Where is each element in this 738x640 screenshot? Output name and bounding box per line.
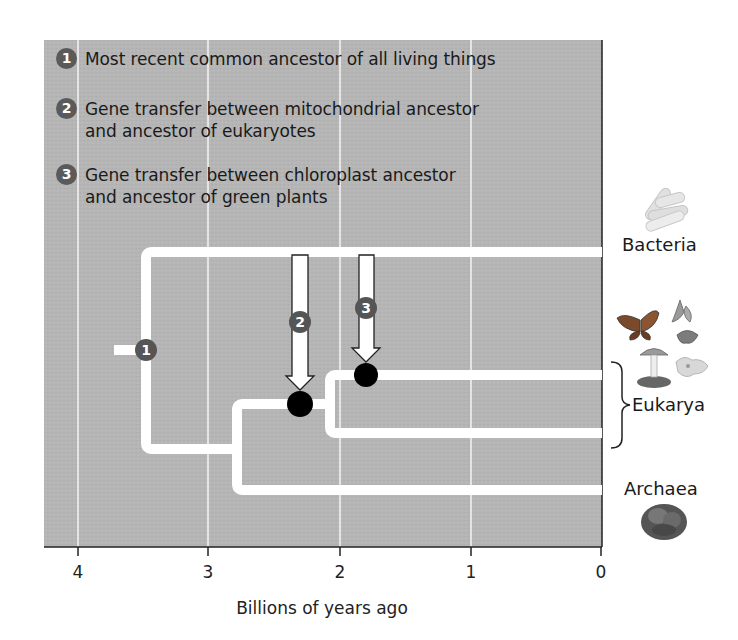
taxon-label-eukarya: Eukarya (632, 394, 705, 415)
butterfly-icon (617, 311, 659, 340)
phylogenetic-tree-figure: 1 Most recent common ancestor of all liv… (0, 0, 738, 640)
legend-item-1: 1 Most recent common ancestor of all liv… (56, 48, 496, 70)
legend-text-2-line2: and ancestor of eukaryotes (85, 120, 479, 142)
legend-text-1: Most recent common ancestor of all livin… (85, 48, 496, 70)
tree-marker-2: 2 (289, 311, 311, 333)
taxon-label-archaea: Archaea (624, 478, 698, 499)
tree-marker-3: 3 (355, 297, 377, 319)
taxon-label-bacteria: Bacteria (622, 234, 697, 255)
legend-marker-3: 3 (56, 164, 77, 185)
amoeba-icon (676, 357, 708, 376)
x-axis-ticks (78, 547, 601, 556)
legend-marker-2: 2 (56, 98, 77, 119)
legend-item-3: 3 Gene transfer between chloroplast ance… (56, 164, 456, 208)
x-axis-title: Billions of years ago (236, 598, 408, 618)
legend-text-3-line1: Gene transfer between chloroplast ancest… (85, 164, 456, 186)
tree-canvas (0, 0, 738, 640)
x-tick-label-2: 2 (335, 562, 346, 582)
x-tick-label-0: 0 (596, 562, 607, 582)
event-dot-3 (354, 363, 378, 387)
flower-plant-icon (672, 300, 698, 343)
event-dot-2 (287, 391, 313, 417)
rod-bacteria-icon (644, 186, 689, 232)
mushroom-icon (637, 349, 671, 389)
eukarya-brace (611, 362, 630, 448)
legend-text-2-line1: Gene transfer between mitochondrial ance… (85, 98, 479, 120)
archaea-cell-icon (641, 504, 687, 540)
x-tick-label-1: 1 (466, 562, 477, 582)
x-tick-label-4: 4 (73, 562, 84, 582)
x-tick-label-3: 3 (203, 562, 214, 582)
legend-item-2: 2 Gene transfer between mitochondrial an… (56, 98, 479, 142)
legend-text-3-line2: and ancestor of green plants (85, 186, 456, 208)
legend-marker-1: 1 (56, 48, 77, 69)
tree-marker-1: 1 (135, 339, 157, 361)
